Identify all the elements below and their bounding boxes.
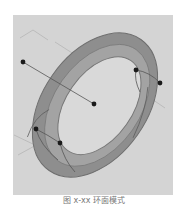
point-ring-2 [158, 81, 163, 86]
point-ring-3 [34, 127, 39, 132]
point-external [21, 60, 26, 65]
point-ring-4 [58, 141, 63, 146]
figure-caption: 图 x-xx 环面模式 [0, 196, 188, 206]
point-center [92, 102, 97, 107]
torus-diagram [0, 0, 188, 206]
point-ring-1 [134, 68, 139, 73]
